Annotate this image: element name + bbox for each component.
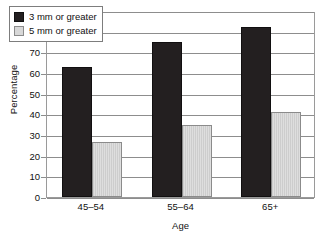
bar-5564-series2 bbox=[182, 125, 212, 197]
bar-4554-series2 bbox=[92, 142, 122, 197]
y-tick-label-40: 40 bbox=[14, 110, 40, 119]
x-tick-label-0: 45–54 bbox=[56, 202, 126, 212]
legend-swatch-dark-icon bbox=[14, 12, 24, 22]
bar-65-series1 bbox=[241, 27, 271, 198]
bar-4554-series1 bbox=[62, 67, 92, 197]
legend-item-2: 5 mm or greater bbox=[14, 24, 97, 38]
y-tick-label-10: 10 bbox=[14, 172, 40, 181]
x-tick-label-1: 55–64 bbox=[146, 202, 216, 212]
x-tick-label-2: 65+ bbox=[235, 202, 305, 212]
y-tick-mark-0 bbox=[41, 198, 46, 199]
bar-65-series2 bbox=[271, 112, 301, 197]
legend-label-1: 3 mm or greater bbox=[29, 12, 97, 22]
bar-chart: Percentage 9080706050403020100 45–5455–6… bbox=[0, 0, 324, 244]
y-tick-label-70: 70 bbox=[14, 48, 40, 57]
bar-5564-series1 bbox=[152, 42, 182, 197]
gridline-0 bbox=[47, 198, 314, 199]
chart-legend: 3 mm or greater5 mm or greater bbox=[9, 6, 103, 42]
y-tick-label-50: 50 bbox=[14, 90, 40, 99]
legend-swatch-light-icon bbox=[14, 26, 24, 36]
legend-label-2: 5 mm or greater bbox=[29, 26, 97, 36]
y-tick-label-0: 0 bbox=[14, 193, 40, 202]
legend-item-1: 3 mm or greater bbox=[14, 10, 97, 24]
y-tick-label-20: 20 bbox=[14, 152, 40, 161]
x-axis-title: Age bbox=[46, 220, 315, 231]
y-tick-label-30: 30 bbox=[14, 131, 40, 140]
y-tick-label-60: 60 bbox=[14, 69, 40, 78]
